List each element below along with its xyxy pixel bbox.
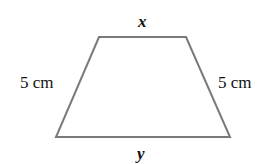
- top-side-label: x: [138, 13, 147, 30]
- bottom-side-label: y: [137, 145, 145, 162]
- trapezoid-diagram: x y 5 cm 5 cm: [0, 0, 271, 164]
- right-side-label: 5 cm: [218, 74, 252, 91]
- left-side-label: 5 cm: [20, 74, 54, 91]
